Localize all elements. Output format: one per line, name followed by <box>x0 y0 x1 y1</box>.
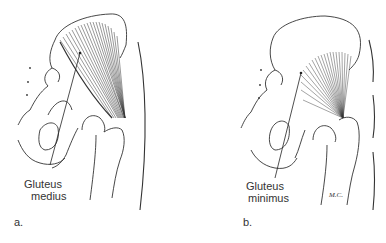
gluteus-medius-illustration <box>0 0 193 243</box>
gluteus-medius-label: Gluteus medius <box>24 178 66 202</box>
label-line-1: Gluteus <box>24 178 66 190</box>
label-line-2: medius <box>24 190 66 202</box>
panel-b-gluteus-minimus: Gluteus minimus M.C. b. <box>193 0 386 243</box>
artist-signature: M.C. <box>329 191 343 199</box>
label-line-1: Gluteus <box>246 180 289 192</box>
gluteus-minimus-label: Gluteus minimus <box>246 180 289 204</box>
gluteus-minimus-illustration <box>193 0 386 243</box>
label-line-2: minimus <box>246 192 289 204</box>
panel-a-gluteus-medius: Gluteus medius a. <box>0 0 193 243</box>
panel-letter-b: b. <box>243 216 252 228</box>
panel-letter-a: a. <box>14 216 23 228</box>
